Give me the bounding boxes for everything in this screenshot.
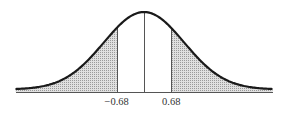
tick-label-left: −0.68 — [105, 96, 129, 107]
normal-curve-chart: −0.68 0.68 — [0, 0, 282, 115]
left-tail-shaded-region — [16, 28, 117, 92]
right-tail-shaded-region — [171, 28, 272, 92]
tick-label-right: 0.68 — [162, 96, 180, 107]
